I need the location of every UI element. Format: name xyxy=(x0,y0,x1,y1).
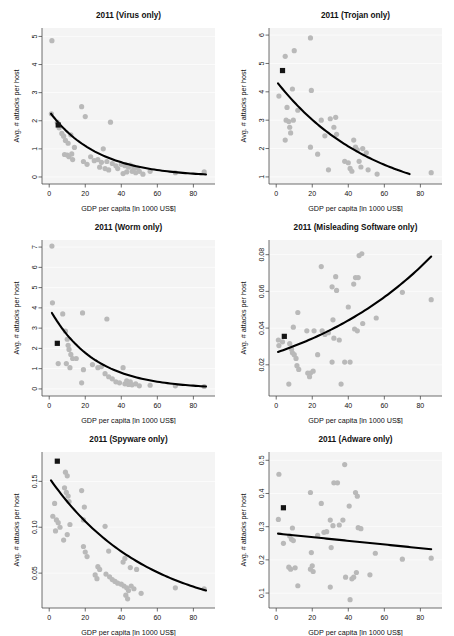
x-tick-label: 60 xyxy=(380,190,388,197)
data-point xyxy=(330,317,335,322)
data-point xyxy=(84,554,89,559)
x-axis-label: GDP per capita [in 1000 US$] xyxy=(81,416,176,424)
data-point xyxy=(108,120,113,125)
data-point xyxy=(315,152,320,157)
data-point xyxy=(375,171,380,176)
data-point xyxy=(347,359,352,364)
data-point xyxy=(82,504,87,509)
data-point xyxy=(104,159,109,164)
data-point xyxy=(287,125,292,130)
y-axis-label: Avg. # attacks per host xyxy=(239,494,248,567)
data-point xyxy=(374,315,379,320)
data-point xyxy=(319,501,324,506)
chart-title: 2011 (Virus only) xyxy=(96,11,161,20)
data-point xyxy=(347,597,352,602)
data-point xyxy=(99,160,104,165)
x-tick-label: 20 xyxy=(308,402,316,409)
data-point xyxy=(351,575,356,580)
data-point xyxy=(351,137,356,142)
figure-grid: 2011 (Virus only)020406080012345GDP per … xyxy=(0,0,454,636)
highlight-marker xyxy=(280,68,285,73)
data-point xyxy=(343,575,348,580)
data-point xyxy=(329,545,334,550)
data-point xyxy=(308,35,313,40)
data-point xyxy=(400,290,405,295)
data-point xyxy=(84,162,89,167)
y-tick-label: 0.4 xyxy=(259,489,266,499)
data-point xyxy=(347,504,352,509)
highlight-marker xyxy=(55,341,60,346)
data-point xyxy=(120,365,125,370)
data-point xyxy=(88,154,93,159)
y-tick-label: 5 xyxy=(259,61,266,65)
y-tick-label: 6 xyxy=(259,33,266,37)
data-point xyxy=(80,310,85,315)
data-point xyxy=(66,493,71,498)
data-point xyxy=(53,528,58,533)
data-point xyxy=(324,529,329,534)
x-tick-label: 60 xyxy=(380,614,388,621)
y-tick-label: 0.04 xyxy=(259,321,266,335)
data-point xyxy=(79,380,84,385)
data-point xyxy=(337,337,342,342)
y-tick-label: 0 xyxy=(32,175,39,179)
chart-panel: 2011 (Worm only)02040608001234567GDP per… xyxy=(0,212,227,424)
x-tick-label: 20 xyxy=(308,190,316,197)
data-point xyxy=(288,567,293,572)
chart-title: 2011 (Trojan only) xyxy=(321,11,390,20)
data-point xyxy=(284,105,289,110)
data-point xyxy=(319,118,324,123)
chart-panel: 2011 (Spyware only)0204060800.050.100.15… xyxy=(0,424,227,636)
data-point xyxy=(81,544,86,549)
data-point xyxy=(67,522,72,527)
x-tick-label: 80 xyxy=(416,614,424,621)
x-axis-label: GDP per capita [in 1000 US$] xyxy=(308,416,403,424)
data-point xyxy=(331,336,336,341)
x-tick-label: 0 xyxy=(47,190,51,197)
y-axis-label: Avg. # attacks per host xyxy=(239,70,248,143)
data-point xyxy=(322,133,327,138)
data-point xyxy=(283,137,288,142)
data-point xyxy=(311,569,316,574)
data-point xyxy=(120,560,125,565)
data-point xyxy=(293,356,298,361)
x-tick-label: 20 xyxy=(81,614,89,621)
data-point xyxy=(329,359,334,364)
data-point xyxy=(49,243,54,248)
data-point xyxy=(106,167,111,172)
y-tick-label: 0.2 xyxy=(259,555,266,565)
data-point xyxy=(308,145,313,150)
plot-area xyxy=(42,28,215,184)
data-point xyxy=(50,300,55,305)
x-tick-label: 0 xyxy=(47,614,51,621)
data-point xyxy=(49,38,54,43)
data-point xyxy=(367,572,372,577)
data-point xyxy=(83,114,88,119)
data-point xyxy=(56,520,61,525)
x-tick-label: 60 xyxy=(153,190,161,197)
data-point xyxy=(342,359,347,364)
data-point xyxy=(131,586,136,591)
data-point xyxy=(335,480,340,485)
x-axis-label: GDP per capita [in 1000 US$] xyxy=(81,628,176,636)
x-tick-label: 80 xyxy=(416,190,424,197)
data-point xyxy=(101,146,106,151)
highlight-marker xyxy=(56,122,61,127)
data-point xyxy=(286,119,291,124)
data-point xyxy=(354,570,359,575)
data-point xyxy=(139,591,144,596)
y-tick-label: 0.02 xyxy=(259,358,266,372)
data-point xyxy=(291,538,296,543)
data-point xyxy=(296,367,301,372)
x-tick-label: 0 xyxy=(274,614,278,621)
data-point xyxy=(360,146,365,151)
data-point xyxy=(286,381,291,386)
data-point xyxy=(97,567,102,572)
x-axis-label: GDP per capita [in 1000 US$] xyxy=(81,204,176,212)
data-point xyxy=(331,125,336,130)
data-point xyxy=(358,164,363,169)
data-point xyxy=(351,281,356,286)
data-point xyxy=(309,550,314,555)
data-point xyxy=(117,380,122,385)
y-tick-label: 3 xyxy=(32,91,39,95)
